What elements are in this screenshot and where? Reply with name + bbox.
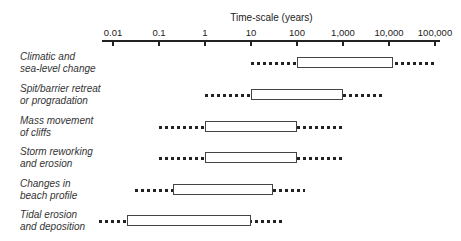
tick-mark: [250, 40, 252, 46]
tick-mark: [434, 40, 436, 46]
range-box: [205, 121, 297, 132]
range-box: [297, 57, 393, 68]
row-label: Climatic and sea-level change: [20, 51, 96, 75]
range-box: [251, 89, 343, 100]
tick-label: 100,000: [418, 27, 452, 38]
range-box: [205, 152, 297, 163]
x-axis-title: Time-scale (years): [0, 12, 461, 23]
range-box: [127, 215, 251, 226]
tick-mark: [204, 40, 206, 46]
tick-label: 100: [289, 27, 305, 38]
tick-label: 1: [202, 27, 207, 38]
tick-mark: [158, 40, 160, 46]
tick-label: 0.1: [152, 27, 165, 38]
tick-mark: [342, 40, 344, 46]
row-label: Mass movement of cliffs: [20, 115, 93, 139]
row-label: Spit/barrier retreat or progradation: [20, 83, 101, 107]
tick-mark: [296, 40, 298, 46]
tick-mark: [388, 40, 390, 46]
row-label: Changes in beach profile: [20, 178, 77, 202]
row-label: Tidal erosion and deposition: [20, 209, 85, 233]
tick-label: 10,000: [374, 27, 403, 38]
tick-label: 1,000: [331, 27, 355, 38]
row-label: Storm reworking and erosion: [20, 146, 93, 170]
range-box: [173, 184, 273, 195]
tick-label: 0.01: [104, 27, 123, 38]
tick-mark: [112, 40, 114, 46]
tick-label: 10: [246, 27, 257, 38]
